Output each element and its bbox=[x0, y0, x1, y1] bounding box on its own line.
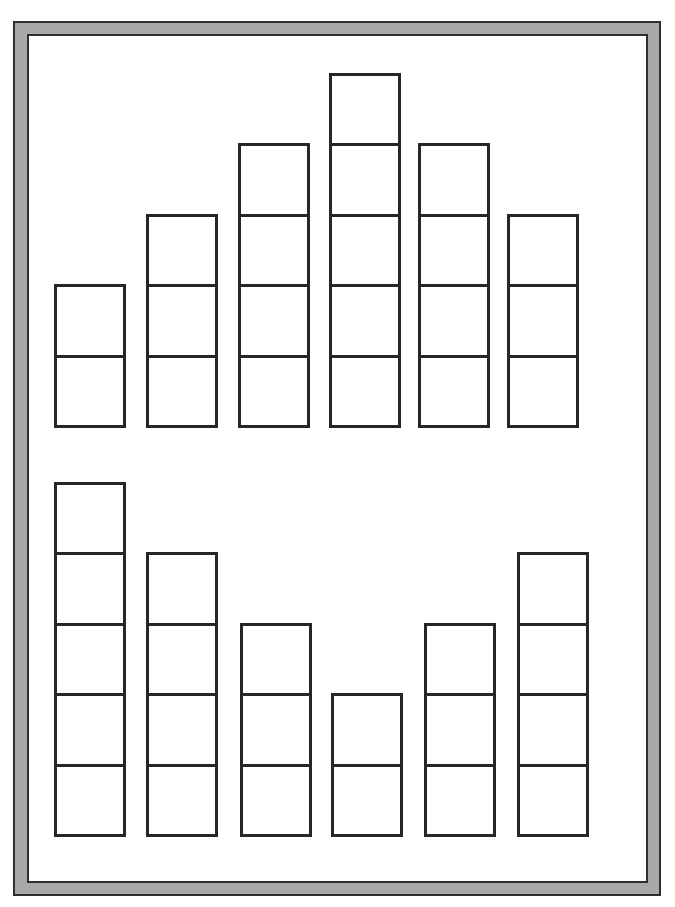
block-cell bbox=[507, 355, 579, 429]
block-cell bbox=[329, 355, 401, 429]
top-row-stack-5 bbox=[418, 143, 490, 428]
bottom-row-stack-4 bbox=[331, 693, 403, 837]
block-cell bbox=[329, 73, 401, 147]
bottom-row-stack-1 bbox=[54, 482, 126, 838]
bottom-row-stack-2 bbox=[146, 552, 218, 837]
block-cell bbox=[418, 284, 490, 358]
top-row-stack-3 bbox=[238, 143, 310, 428]
block-cell bbox=[54, 552, 126, 626]
bottom-row-stack-6 bbox=[517, 552, 589, 837]
block-cell bbox=[146, 693, 218, 767]
bottom-row-stack-3 bbox=[240, 623, 312, 838]
block-cell bbox=[54, 764, 126, 838]
block-cell bbox=[517, 623, 589, 697]
block-cell bbox=[507, 284, 579, 358]
bottom-row-stack-5 bbox=[424, 623, 496, 838]
block-cell bbox=[418, 214, 490, 288]
block-cell bbox=[240, 623, 312, 697]
block-cell bbox=[240, 764, 312, 838]
block-cell bbox=[146, 764, 218, 838]
top-row-stack-4 bbox=[329, 73, 401, 429]
block-cell bbox=[507, 214, 579, 288]
block-cell bbox=[238, 143, 310, 217]
top-row-stack-1 bbox=[54, 284, 126, 428]
block-cell bbox=[329, 143, 401, 217]
top-row-stack-6 bbox=[507, 214, 579, 429]
block-cell bbox=[146, 214, 218, 288]
block-cell bbox=[146, 623, 218, 697]
block-cell bbox=[331, 764, 403, 838]
block-cell bbox=[424, 623, 496, 697]
block-cell bbox=[418, 355, 490, 429]
block-cell bbox=[329, 284, 401, 358]
block-cell bbox=[331, 693, 403, 767]
block-cell bbox=[329, 214, 401, 288]
block-cell bbox=[240, 693, 312, 767]
block-cell bbox=[238, 214, 310, 288]
block-cell bbox=[238, 284, 310, 358]
block-cell bbox=[418, 143, 490, 217]
block-cell bbox=[54, 693, 126, 767]
block-cell bbox=[54, 482, 126, 556]
block-cell bbox=[54, 623, 126, 697]
block-cell bbox=[517, 552, 589, 626]
block-cell bbox=[146, 355, 218, 429]
block-cell bbox=[424, 693, 496, 767]
block-cell bbox=[146, 552, 218, 626]
top-row-stack-2 bbox=[146, 214, 218, 429]
block-cell bbox=[146, 284, 218, 358]
block-cell bbox=[424, 764, 496, 838]
block-cell bbox=[238, 355, 310, 429]
block-cell bbox=[517, 764, 589, 838]
block-cell bbox=[54, 284, 126, 358]
block-cell bbox=[517, 693, 589, 767]
block-cell bbox=[54, 355, 126, 429]
